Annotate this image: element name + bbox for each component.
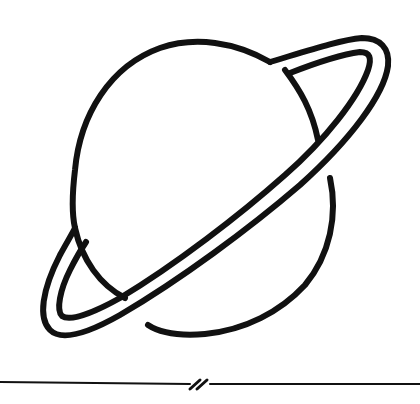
planet-body-lower [148,178,333,335]
ring-outer [43,38,388,335]
planet-body-upper [73,42,270,228]
drawing-canvas [0,0,420,404]
break-mark [190,380,207,389]
ground-line [0,382,420,384]
saturn-illustration [0,0,420,404]
planet-body-right-upper [285,70,318,140]
planet-body-left-lower [75,228,125,298]
